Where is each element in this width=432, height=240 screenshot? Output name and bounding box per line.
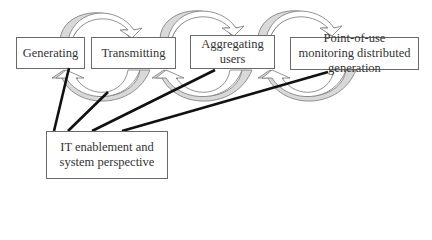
node-label: IT enablement and system perspective [52, 140, 162, 170]
edge-it-generating [54, 68, 69, 131]
node-it-enablement: IT enablement and system perspective [46, 131, 168, 179]
